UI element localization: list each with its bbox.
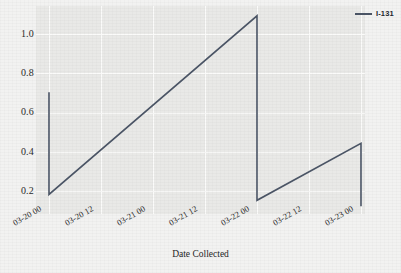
x-tick-label: 03-20 00 — [11, 203, 43, 227]
cut-off-caption: — — [0, 264, 401, 273]
x-axis-title: Date Collected — [0, 249, 401, 259]
chart-legend: I-131 — [355, 9, 394, 18]
plot-area — [36, 6, 365, 214]
y-tick-label: 0.6 — [21, 106, 34, 117]
chart-figure: 1.0 0.8 0.6 0.4 0.2 03-20 00 03-20 12 03… — [0, 0, 401, 273]
series-line-i-131 — [36, 6, 365, 214]
y-tick-label: 0.2 — [21, 185, 34, 196]
y-tick-label: 0.4 — [21, 146, 34, 157]
y-tick-label: 0.8 — [21, 67, 34, 78]
legend-entry-label: I-131 — [376, 9, 394, 18]
y-tick-label: 1.0 — [21, 28, 34, 39]
legend-line-swatch-icon — [355, 13, 372, 15]
